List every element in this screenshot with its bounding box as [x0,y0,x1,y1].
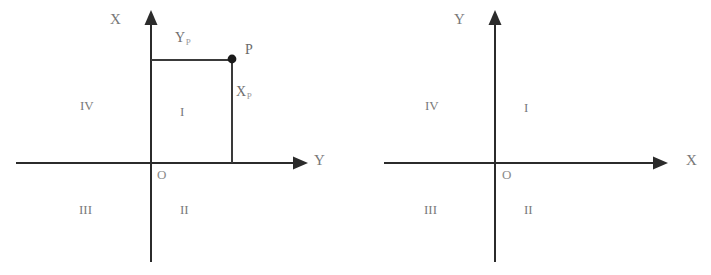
segment-y-main: Y [175,30,185,45]
left-horizontal-axis-arrowhead [293,157,308,170]
right-quadrant-label-i: I [524,101,528,114]
left-quadrant-label-ii: II [180,203,189,216]
segment-x-main: X [236,84,246,99]
left-origin-label: O [157,168,166,181]
segment-x-subscript: P [247,91,252,101]
left-quadrant-label-iv: IV [80,99,94,112]
right-origin-label: O [502,168,511,181]
right-quadrant-label-ii: II [524,203,533,216]
point-p-marker [228,55,237,64]
right-vertical-axis-label: Y [454,12,465,27]
left-vertical-axis-label: X [110,12,121,27]
left-coordinate-diagram: X Y O YP XP P IV I III II [0,0,356,275]
point-p-label: P [245,43,253,57]
right-quadrant-label-iv: IV [425,99,439,112]
right-horizontal-axis-arrowhead [653,157,668,170]
right-quadrant-label-iii: III [424,203,437,216]
left-vertical-axis-arrowhead [145,10,158,25]
right-vertical-axis-arrowhead [489,10,502,25]
segment-y-subscript: P [186,37,191,47]
segment-label-x-p: XP [236,85,251,99]
figure-canvas: X Y O YP XP P IV I III II Y X O IV I III… [0,0,711,275]
right-horizontal-axis-label: X [686,153,697,168]
right-coordinate-diagram: Y X O IV I III II [356,0,711,275]
left-horizontal-axis-label: Y [314,153,325,168]
right-diagram-svg [356,0,711,275]
left-quadrant-label-i: I [180,105,184,118]
segment-label-y-p: YP [175,31,190,45]
left-quadrant-label-iii: III [79,203,92,216]
